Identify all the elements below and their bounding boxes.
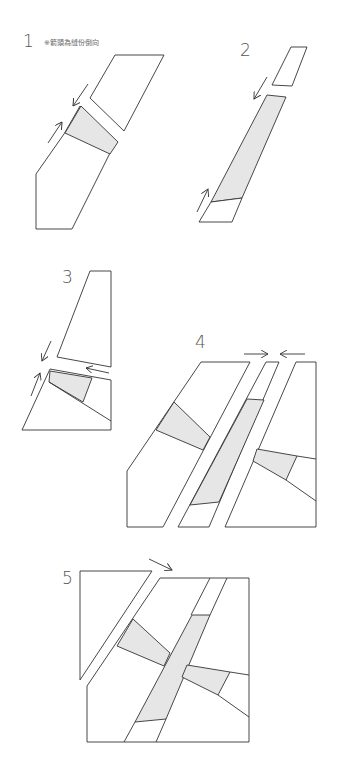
step-4: 4 xyxy=(127,332,316,527)
step-5: 5 xyxy=(62,559,249,742)
arrow-icon xyxy=(254,77,267,99)
step-2-label: 2 xyxy=(240,40,251,60)
step-5-label: 5 xyxy=(62,568,73,588)
step-3: 3 xyxy=(22,267,111,430)
quilt-diagram: 1 ※箭頭為縫份倒向 2 3 4 xyxy=(0,0,341,776)
step-1-label: 1 xyxy=(23,31,34,51)
step2-top-strip xyxy=(272,47,307,86)
arrow-icon xyxy=(73,84,88,106)
step-1: 1 ※箭頭為縫份倒向 xyxy=(23,31,164,229)
step2-shaded-strip xyxy=(211,95,286,202)
step2-bottom-strip xyxy=(199,198,242,222)
arrow-icon xyxy=(42,341,51,361)
step-4-label: 4 xyxy=(195,332,206,352)
arrow-icon xyxy=(197,189,208,212)
arrow-icon xyxy=(86,368,109,373)
arrow-icon xyxy=(31,373,40,396)
step1-upper-piece xyxy=(90,55,164,131)
arrow-icon xyxy=(149,559,172,570)
step-2: 2 xyxy=(197,40,307,222)
step-3-label: 3 xyxy=(62,267,73,287)
note-text: ※箭頭為縫份倒向 xyxy=(44,38,99,47)
